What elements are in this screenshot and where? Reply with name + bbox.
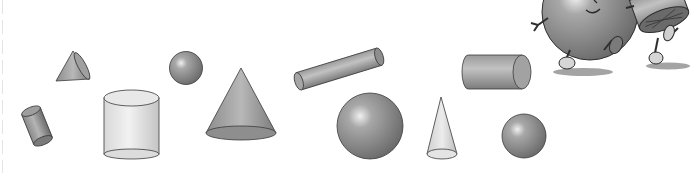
shape-small-sphere	[170, 52, 203, 85]
shape-tall-narrow-cone	[427, 97, 457, 159]
shape-long-tilted-cylinder	[292, 47, 385, 91]
shape-large-sphere	[337, 93, 403, 159]
character-walking-sphere	[531, 0, 638, 76]
shape-large-cone	[206, 68, 276, 140]
shape-small-tilted-cylinder	[20, 104, 54, 149]
shape-large-light-cylinder	[104, 90, 159, 159]
shape-horizontal-cylinder	[462, 55, 531, 89]
shape-small-cone-on-side	[56, 51, 93, 81]
shape-medium-sphere	[502, 114, 546, 158]
geometric-solids-illustration	[0, 0, 699, 173]
character-walking-cylinder	[626, 0, 692, 69]
